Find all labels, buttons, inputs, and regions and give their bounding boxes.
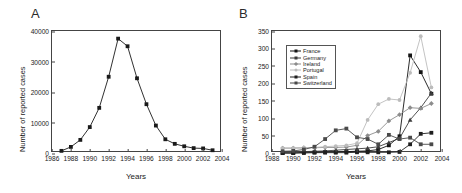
x-tick-mark [442,149,443,152]
panel-a-y-axis-label: Number of reported cases [18,67,27,152]
x-tick-label: 2004 [435,155,450,162]
data-point-marker [344,151,348,155]
x-tick-label: 2000 [177,155,192,162]
x-tick-label: 1986 [45,155,60,162]
data-point-marker [182,144,186,148]
data-point-marker [126,44,130,48]
panel-b: B Number of reported cases FranceGermany… [231,0,462,193]
data-point-marker [376,102,380,106]
data-point-marker [419,34,423,38]
data-point-marker [398,98,402,102]
data-point-marker [366,137,370,141]
data-point-marker [154,124,158,128]
data-point-marker [88,125,92,129]
x-tick-mark [222,149,223,152]
data-point-marker [387,150,391,154]
data-point-marker [397,112,402,117]
x-tick-label: 2002 [413,155,428,162]
legend-item-label: France [303,48,320,54]
data-point-marker [408,105,413,110]
x-tick-mark [203,149,204,152]
data-point-marker [173,142,177,146]
y-tick-label: 100 [258,115,269,122]
x-tick-mark [90,149,91,152]
data-point-marker [97,106,101,110]
y-tick-label: 40000 [31,28,49,35]
legend-swatch-icon [290,48,301,54]
panel-b-label: B [239,6,248,21]
panel-a: A Number of reported cases 0100002000030… [0,0,231,193]
data-point-marker [334,144,338,148]
x-tick-label: 2002 [196,155,211,162]
x-tick-mark [314,149,315,152]
data-point-marker [355,141,359,145]
legend-item-label: Germany [303,55,326,61]
legend-swatch-icon [290,55,301,61]
x-tick-mark [146,149,147,152]
x-tick-mark [336,149,337,152]
y-tick-mark [52,123,55,124]
x-tick-label: 2000 [392,155,407,162]
data-point-marker [429,142,433,146]
data-point-marker [116,37,120,41]
x-tick-mark [109,149,110,152]
panel-a-label: A [31,6,40,21]
legend-item-switzerland[interactable]: Switzerland [290,80,332,86]
x-tick-mark [272,149,273,152]
y-tick-mark [272,153,275,154]
figure: A Number of reported cases 0100002000030… [0,0,462,193]
y-tick-label: 30000 [31,58,49,65]
data-point-marker [135,76,139,80]
x-tick-mark [378,149,379,152]
y-tick-mark [52,92,55,93]
data-point-marker [366,150,370,154]
x-tick-mark [421,149,422,152]
data-point-marker [408,54,412,58]
y-tick-mark [52,62,55,63]
data-point-marker [334,128,338,132]
data-point-marker [107,75,111,79]
data-point-marker [302,151,306,155]
data-point-marker [355,135,359,139]
data-point-marker [419,132,423,136]
x-tick-label: 1988 [265,155,280,162]
y-tick-mark [272,66,275,67]
y-tick-label: 250 [258,62,269,69]
data-point-marker [323,145,327,149]
y-tick-label: 350 [258,28,269,35]
x-tick-label: 1988 [64,155,79,162]
y-tick-mark [272,101,275,102]
x-tick-label: 1994 [328,155,343,162]
legend-item-label: Portugal [303,67,324,73]
y-tick-label: 300 [258,45,269,52]
data-point-marker [408,71,412,75]
legend-item-label: Spain [303,74,317,80]
panel-b-legend: FranceGermanyIrelandPortugalSpainSwitzer… [286,45,336,89]
x-tick-mark [184,149,185,152]
data-point-marker [419,142,423,146]
y-tick-mark [52,153,55,154]
data-point-marker [376,142,380,146]
data-point-marker [398,137,402,141]
data-point-marker [281,149,285,153]
data-point-marker [323,137,327,141]
x-tick-label: 1996 [350,155,365,162]
data-point-marker [302,148,306,152]
x-tick-label: 1996 [139,155,154,162]
legend-item-germany[interactable]: Germany [290,54,332,60]
data-point-marker [323,151,327,155]
x-tick-mark [357,149,358,152]
series-line-panel-a [61,39,212,151]
x-tick-mark [165,149,166,152]
data-point-marker [419,70,423,74]
data-point-marker [387,97,391,101]
data-point-marker [344,127,348,131]
y-tick-label: 20000 [31,89,49,96]
y-tick-label: 50 [262,132,269,139]
x-tick-label: 1998 [158,155,173,162]
data-point-marker [163,137,167,141]
x-tick-mark [128,149,129,152]
x-tick-label: 1992 [101,155,116,162]
x-tick-mark [293,149,294,152]
panel-a-series-layer [52,31,222,153]
